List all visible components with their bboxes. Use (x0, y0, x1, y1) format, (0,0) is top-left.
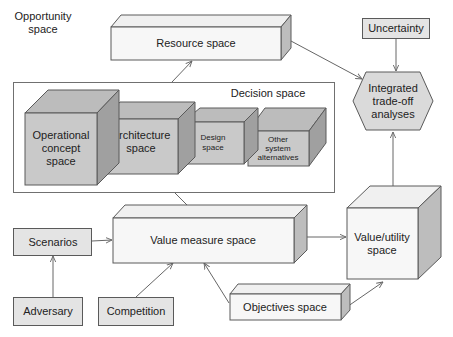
value-measure-space-node: Value measure space (113, 205, 307, 263)
edge-scenarios-to-valuemeasure (92, 240, 112, 241)
value-utility-node: Value/utility space (347, 186, 441, 279)
decision-space-label: Decision space (231, 87, 306, 99)
opportunity-label-line1: Opportunity (15, 10, 72, 22)
edge-decision-to-resource (172, 61, 192, 82)
edge-resource-to-tradeoff (291, 41, 362, 79)
competition-label: Competition (107, 305, 166, 317)
competition-node: Competition (99, 298, 174, 326)
integrated-tradeoff-label-3: analyses (371, 108, 415, 120)
resource-space-label: Resource space (156, 37, 236, 49)
value-utility-label-2: space (367, 244, 396, 256)
uncertainty-label: Uncertainty (368, 22, 424, 34)
opportunity-label-line2: space (28, 23, 57, 35)
objectives-space-node: Objectives space (230, 284, 350, 320)
design-space-label-1: Design (201, 133, 226, 142)
operational-concept-label-1: Operational (33, 129, 90, 141)
operational-concept-cube: Operational concept space (25, 90, 119, 185)
operational-concept-label-3: space (46, 155, 75, 167)
other-alternatives-cube: Other system alternatives (248, 108, 326, 166)
integrated-tradeoff-node: Integrated trade-off analyses (353, 72, 433, 130)
opportunity-space-label: Opportunity space (15, 10, 72, 35)
other-alternatives-label-1: Other (268, 135, 288, 144)
design-space-label-2: space (202, 143, 224, 152)
other-alternatives-label-2: system (265, 144, 291, 153)
edge-competition-to-valuemeasure (136, 263, 173, 297)
architecture-space-label-1: Architecture (112, 129, 171, 141)
edge-objectives-to-valuemeasure (204, 263, 229, 303)
operational-concept-label-2: concept (42, 142, 81, 154)
resource-space-top (111, 15, 291, 27)
integrated-tradeoff-label-1: Integrated (368, 82, 418, 94)
adversary-node: Adversary (14, 298, 83, 326)
adversary-label: Adversary (23, 305, 73, 317)
value-measure-top (113, 205, 307, 218)
resource-space-node: Resource space (111, 15, 291, 60)
value-measure-label: Value measure space (150, 234, 256, 246)
value-utility-label-1: Value/utility (354, 231, 410, 243)
objectives-top (230, 284, 350, 294)
decision-space-node: Decision space Other system alternatives… (14, 83, 335, 193)
scenarios-node: Scenarios (14, 229, 92, 256)
architecture-space-label-2: space (126, 142, 155, 154)
scenarios-label: Scenarios (29, 236, 78, 248)
integrated-tradeoff-label-2: trade-off (373, 95, 415, 107)
uncertainty-node: Uncertainty (363, 19, 430, 39)
objectives-label: Objectives space (243, 301, 327, 313)
other-alternatives-label-3: alternatives (258, 153, 299, 162)
value-tradeoff-diagram: Opportunity space Resource space (0, 0, 453, 337)
